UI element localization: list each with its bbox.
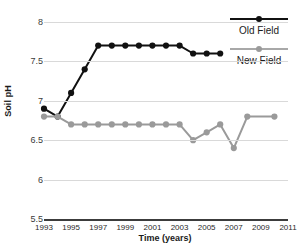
data-point	[204, 50, 210, 56]
data-point	[136, 43, 142, 49]
data-point	[82, 121, 88, 127]
soil-ph-line-chart: 87.576.565.5 Soil pH Time (years) Old Fi…	[0, 0, 299, 251]
x-axis-tick-label: 2007	[219, 223, 249, 232]
data-point	[149, 121, 155, 127]
gridline	[44, 22, 288, 23]
data-point	[149, 43, 155, 49]
data-point	[41, 106, 47, 112]
gridline	[44, 180, 288, 181]
x-axis-tick-label: 2001	[137, 223, 167, 232]
data-point	[231, 145, 237, 151]
data-point	[271, 114, 277, 120]
data-point	[109, 43, 115, 49]
data-point	[163, 121, 169, 127]
data-point	[68, 121, 74, 127]
series-line-new-field	[44, 117, 274, 149]
data-point	[190, 50, 196, 56]
data-point	[55, 114, 61, 120]
legend-entry-old-field: Old Field	[222, 14, 296, 36]
data-point	[95, 43, 101, 49]
x-axis-tick-label: 1997	[83, 223, 113, 232]
data-point	[217, 121, 223, 127]
data-point	[136, 121, 142, 127]
gridline	[44, 61, 288, 62]
x-axis-tick-label: 2009	[246, 223, 276, 232]
data-point	[163, 43, 169, 49]
legend-entry-new-field: New Field	[222, 44, 296, 66]
x-axis-tick-label: 1993	[29, 223, 59, 232]
data-point	[122, 121, 128, 127]
legend-swatch-new-field	[222, 44, 296, 54]
data-point	[122, 43, 128, 49]
data-point	[41, 114, 47, 120]
x-axis-tick-label: 1995	[56, 223, 86, 232]
data-point	[177, 121, 183, 127]
data-point	[204, 129, 210, 135]
data-point	[244, 114, 250, 120]
x-axis-tick-label: 2011	[273, 223, 299, 232]
data-point	[68, 90, 74, 96]
chart-legend: Old Field New Field	[222, 14, 296, 74]
gridline	[44, 140, 288, 141]
x-axis-tick-label: 2005	[192, 223, 222, 232]
x-axis-tick-label: 2003	[165, 223, 195, 232]
gridline	[44, 101, 288, 102]
data-point	[82, 66, 88, 72]
data-point	[177, 43, 183, 49]
x-axis-baseline	[44, 219, 288, 221]
data-point	[95, 121, 101, 127]
legend-label-old-field: Old Field	[222, 25, 296, 36]
x-axis-tick-label: 1999	[110, 223, 140, 232]
data-point	[109, 121, 115, 127]
